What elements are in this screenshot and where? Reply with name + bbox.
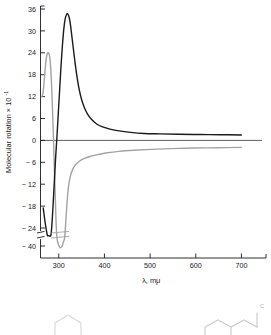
- chemical-structure-strip: C: [0, 293, 271, 335]
- x-tick-label: 300: [53, 261, 65, 270]
- y-tick-label: 30: [28, 27, 36, 36]
- y-axis-break-marker: [37, 231, 45, 238]
- ord-curve-black: [43, 14, 241, 236]
- y-axis-title: Molecular rotation × 10 -1: [3, 91, 13, 173]
- y-tick-label: − 12: [22, 180, 36, 189]
- y-tick-label: − 6: [26, 158, 36, 167]
- y-tick-label: − 24: [22, 224, 36, 233]
- y-axis-title-exponent: -1: [3, 91, 9, 96]
- x-tick-label: 500: [144, 261, 156, 270]
- plot-area: 363024181260− 6− 12− 18− 24− 40300400500…: [0, 0, 271, 295]
- ord-cd-spectrum-figure: 363024181260− 6− 12− 18− 24− 40300400500…: [0, 0, 271, 335]
- y-tick-label: 12: [28, 92, 36, 101]
- cd-curve-gray: [41, 53, 241, 248]
- structure-atom-label: C: [260, 303, 264, 309]
- x-tick-label: 400: [98, 261, 110, 270]
- y-tick-label: 36: [28, 5, 36, 14]
- y-tick-label: 18: [28, 70, 36, 79]
- curves-group: [41, 14, 241, 248]
- gray-curve-break: [51, 231, 69, 238]
- y-tick-label: 6: [32, 114, 36, 123]
- y-tick-label: − 18: [22, 202, 36, 211]
- x-tick-label: 600: [190, 261, 202, 270]
- y-tick-label: 24: [28, 48, 36, 57]
- structure-svg: C: [0, 293, 271, 335]
- chart-svg: 363024181260− 6− 12− 18− 24− 40300400500…: [0, 0, 271, 295]
- y-tick-label: 0: [32, 136, 36, 145]
- structure-left-skeleton: [55, 315, 81, 335]
- y-tick-label: − 40: [22, 242, 36, 251]
- x-tick-label: 700: [235, 261, 247, 270]
- x-axis-title: λ, mμ: [142, 276, 160, 285]
- axes-group: 363024181260− 6− 12− 18− 24− 40300400500…: [22, 5, 266, 270]
- structure-right-skeleton: [205, 313, 257, 335]
